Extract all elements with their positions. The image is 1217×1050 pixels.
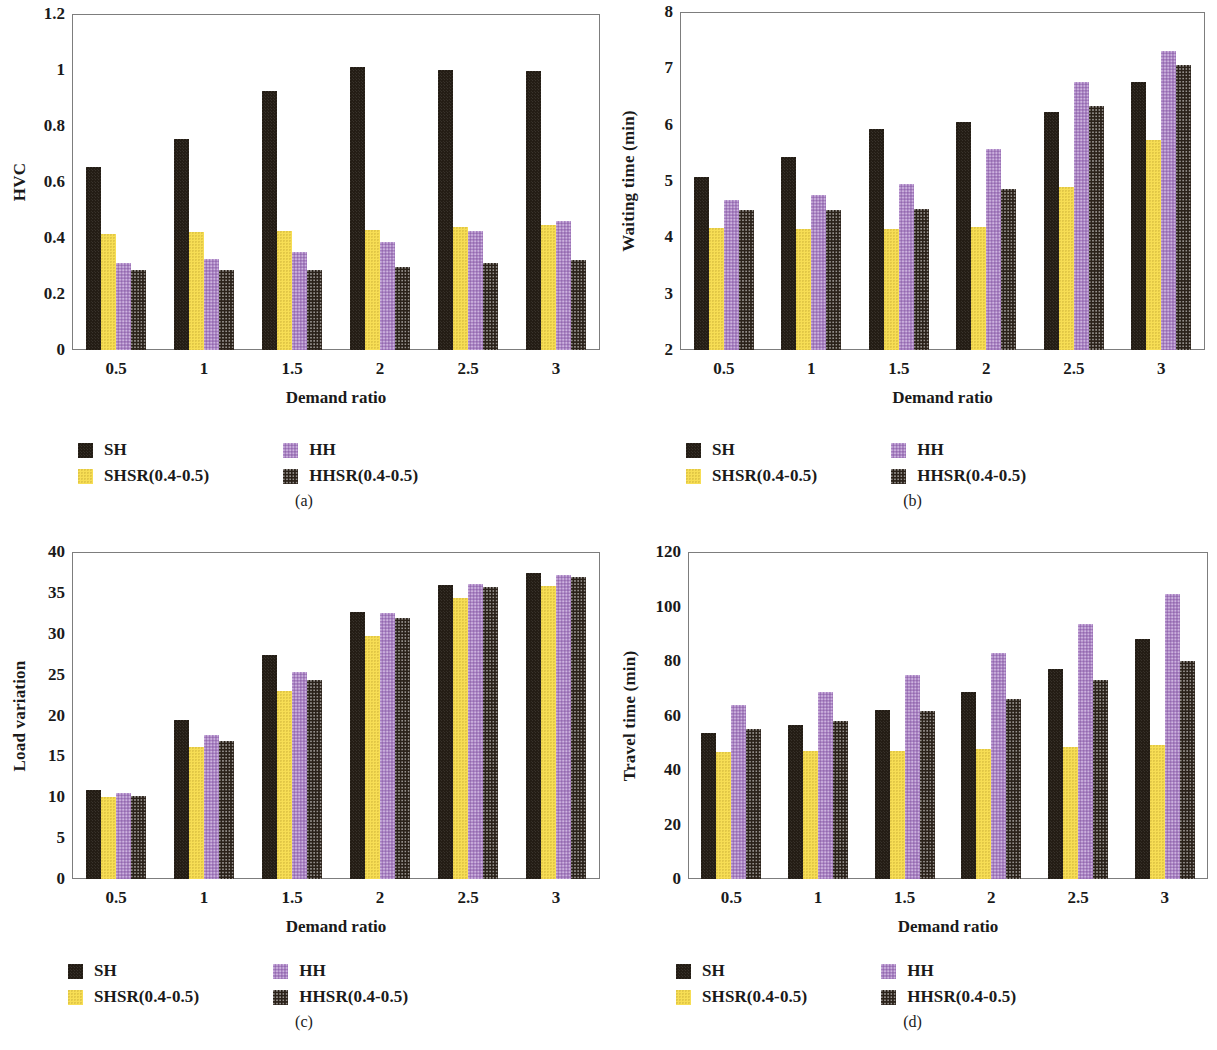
bar bbox=[1059, 187, 1074, 350]
legend-item: SH bbox=[68, 961, 199, 981]
bar-group-2 bbox=[350, 552, 410, 879]
x-tick-label: 2 bbox=[376, 888, 385, 908]
bar bbox=[307, 680, 322, 879]
y-tick-label: 80 bbox=[664, 651, 681, 671]
y-axis-label-d: Travel time (min) bbox=[620, 650, 640, 781]
bar-series-container-c bbox=[72, 552, 600, 879]
legend-c: SHHHSHSR(0.4-0.5)HHSR(0.4-0.5) bbox=[68, 961, 408, 1007]
caption-a: (a) bbox=[295, 492, 313, 510]
figure-grid: 00.20.40.60.811.2 0.511.522.53 HVC Deman… bbox=[0, 0, 1217, 1050]
bar-group-1 bbox=[788, 552, 848, 879]
bar-group-3 bbox=[1131, 12, 1191, 350]
y-tick-label: 1 bbox=[57, 60, 66, 80]
legend-swatch-hh bbox=[283, 443, 298, 458]
legend-item: HHSR(0.4-0.5) bbox=[881, 987, 1016, 1007]
legend-swatch-shsr bbox=[78, 469, 93, 484]
legend-swatch-hh bbox=[881, 964, 896, 979]
bar bbox=[350, 612, 365, 879]
bar bbox=[526, 71, 541, 350]
y-axis-label-a: HVC bbox=[10, 163, 30, 201]
bar bbox=[1180, 661, 1195, 879]
bar bbox=[116, 263, 131, 350]
legend-swatch-sh bbox=[676, 964, 691, 979]
bar-group-0-5 bbox=[86, 552, 146, 879]
bar-group-2-5 bbox=[1048, 552, 1108, 879]
x-tick-label: 1.5 bbox=[894, 888, 915, 908]
bar bbox=[438, 585, 453, 879]
bar-group-3 bbox=[526, 14, 586, 350]
bar bbox=[219, 741, 234, 879]
legend-swatch-sh bbox=[78, 443, 93, 458]
bar bbox=[781, 157, 796, 350]
bar-group-2-5 bbox=[438, 552, 498, 879]
x-tick-label: 2.5 bbox=[457, 359, 478, 379]
y-tick-label: 10 bbox=[48, 787, 65, 807]
bar bbox=[1135, 639, 1150, 879]
legend-item-label: SH bbox=[712, 440, 735, 460]
legend-d: SHHHSHSR(0.4-0.5)HHSR(0.4-0.5) bbox=[676, 961, 1016, 1007]
y-tick-label: 25 bbox=[48, 665, 65, 685]
legend-swatch-sh bbox=[68, 964, 83, 979]
bar bbox=[803, 751, 818, 879]
bar-series-container-b bbox=[680, 12, 1205, 350]
bar bbox=[86, 790, 101, 879]
legend-item-label: SHSR(0.4-0.5) bbox=[104, 466, 209, 486]
bar bbox=[1093, 680, 1108, 879]
bar bbox=[571, 577, 586, 879]
bar-group-1-5 bbox=[869, 12, 929, 350]
bar bbox=[694, 177, 709, 351]
y-tick-label: 0.8 bbox=[44, 116, 65, 136]
legend-swatch-sh bbox=[686, 443, 701, 458]
bar bbox=[350, 67, 365, 350]
caption-b: (b) bbox=[903, 492, 922, 510]
bar bbox=[262, 91, 277, 350]
y-tick-label: 100 bbox=[656, 597, 682, 617]
plot-area-c: 0510152025303540 0.511.522.53 Load varia… bbox=[72, 552, 600, 879]
x-tick-label: 3 bbox=[552, 359, 561, 379]
bar-group-2-5 bbox=[438, 14, 498, 350]
bar bbox=[1001, 189, 1016, 350]
bar-group-0-5 bbox=[86, 14, 146, 350]
legend-item: SH bbox=[686, 440, 817, 460]
bar bbox=[189, 232, 204, 350]
bar bbox=[556, 221, 571, 350]
x-tick-label: 1 bbox=[814, 888, 823, 908]
bar-group-1 bbox=[174, 14, 234, 350]
bar bbox=[468, 231, 483, 350]
bar bbox=[875, 710, 890, 879]
bar bbox=[716, 752, 731, 879]
x-tick-label: 0.5 bbox=[105, 359, 126, 379]
legend-item: HH bbox=[273, 961, 408, 981]
x-axis-label-d: Demand ratio bbox=[898, 917, 999, 937]
bar bbox=[380, 613, 395, 879]
y-tick-label: 20 bbox=[48, 706, 65, 726]
bar-series-container-a bbox=[72, 14, 600, 350]
legend-swatch-hhsr bbox=[891, 469, 906, 484]
bar bbox=[1165, 594, 1180, 879]
bar bbox=[204, 735, 219, 879]
y-tick-label: 0.4 bbox=[44, 228, 65, 248]
y-tick-label: 7 bbox=[665, 58, 674, 78]
legend-item-label: SHSR(0.4-0.5) bbox=[702, 987, 807, 1007]
x-axis-label-a: Demand ratio bbox=[286, 388, 387, 408]
bar bbox=[1146, 140, 1161, 350]
bar bbox=[174, 720, 189, 879]
bar bbox=[189, 747, 204, 879]
y-tick-label: 2 bbox=[665, 340, 674, 360]
y-tick-label: 1.2 bbox=[44, 4, 65, 24]
bar bbox=[701, 733, 716, 879]
legend-swatch-hhsr bbox=[273, 990, 288, 1005]
bar-series-container-d bbox=[688, 552, 1208, 879]
x-tick-label: 2.5 bbox=[1063, 359, 1084, 379]
bar-group-1-5 bbox=[875, 552, 935, 879]
legend-item-label: HH bbox=[917, 440, 944, 460]
legend-item: SHSR(0.4-0.5) bbox=[686, 466, 817, 486]
y-axis-label-c: Load variation bbox=[10, 660, 30, 771]
x-tick-label: 3 bbox=[1157, 359, 1166, 379]
legend-item: HHSR(0.4-0.5) bbox=[891, 466, 1026, 486]
bar bbox=[899, 184, 914, 350]
bar bbox=[1150, 745, 1165, 879]
bar bbox=[1131, 82, 1146, 350]
bar-group-2 bbox=[350, 14, 410, 350]
bar bbox=[1078, 624, 1093, 879]
